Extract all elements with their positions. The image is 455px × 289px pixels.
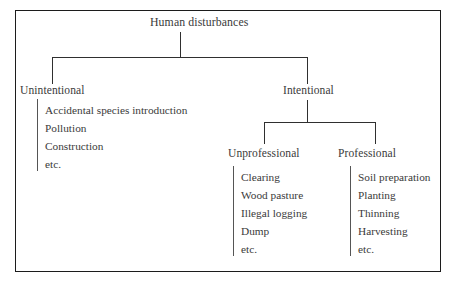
connector-to-unprofessional bbox=[264, 122, 265, 144]
node-professional: Professional bbox=[338, 147, 396, 160]
connector-to-unintentional bbox=[52, 57, 53, 84]
connector-level2-bar bbox=[264, 122, 375, 123]
list-item: Thinning bbox=[358, 204, 430, 222]
list-unprofessional: Clearing Wood pasture Illegal logging Du… bbox=[241, 168, 307, 258]
list-professional: Soil preparation Planting Thinning Harve… bbox=[358, 168, 430, 258]
node-unintentional: Unintentional bbox=[20, 84, 85, 97]
list-item: Harvesting bbox=[358, 222, 430, 240]
list-item: Planting bbox=[358, 186, 430, 204]
connector-to-professional bbox=[375, 122, 376, 144]
connector-to-intentional bbox=[307, 57, 308, 84]
list-unintentional: Accidental species introduction Pollutio… bbox=[45, 101, 187, 173]
list-item: etc. bbox=[241, 240, 307, 258]
list-item: Clearing bbox=[241, 168, 307, 186]
list-item: Dump bbox=[241, 222, 307, 240]
node-root: Human disturbances bbox=[150, 16, 248, 29]
list-rule-unprofessional bbox=[233, 166, 234, 256]
connector-level1-bar bbox=[52, 57, 308, 58]
list-item: Soil preparation bbox=[358, 168, 430, 186]
list-rule-professional bbox=[350, 166, 351, 256]
connector-intentional-stem bbox=[307, 100, 308, 122]
list-item: etc. bbox=[45, 155, 187, 173]
node-unprofessional: Unprofessional bbox=[228, 147, 300, 160]
node-intentional: Intentional bbox=[283, 84, 334, 97]
list-item: Construction bbox=[45, 137, 187, 155]
list-item: Wood pasture bbox=[241, 186, 307, 204]
list-rule-unintentional bbox=[37, 99, 38, 171]
list-item: Accidental species introduction bbox=[45, 101, 187, 119]
list-item: Illegal logging bbox=[241, 204, 307, 222]
list-item: etc. bbox=[358, 240, 430, 258]
connector-root-stem bbox=[180, 32, 181, 57]
list-item: Pollution bbox=[45, 119, 187, 137]
diagram-canvas: Human disturbances Unintentional Acciden… bbox=[0, 0, 455, 289]
